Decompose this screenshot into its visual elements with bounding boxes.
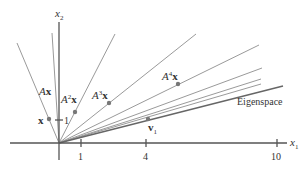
ray-A6x xyxy=(59,79,261,143)
point-x xyxy=(47,117,51,121)
label-v1: v1 xyxy=(148,121,158,136)
iteration-rays xyxy=(17,33,262,143)
point-A4x xyxy=(176,82,180,86)
point-A2x xyxy=(73,110,77,114)
label-eigenspace: Eigenspace xyxy=(237,96,283,107)
x2-axis-label: x2 xyxy=(54,7,64,22)
point-A3x xyxy=(107,101,111,105)
label-A3x: A3x xyxy=(91,89,108,101)
ray-A3x xyxy=(59,34,196,143)
label-Ax: Ax xyxy=(38,85,52,97)
x-tick-label-10: 10 xyxy=(271,151,281,162)
ray-A7x xyxy=(59,84,261,143)
label-A2x: A2x xyxy=(60,93,77,105)
x-tick-label-4: 4 xyxy=(143,151,148,162)
eigenvector-iteration-diagram: x2 x1 1 4 10 1 x Ax A2x A3x A4x v1 Eigen… xyxy=(0,0,306,171)
x1-axis-label: x1 xyxy=(289,136,299,151)
ray-x xyxy=(17,43,59,143)
ray-Ax xyxy=(52,33,59,143)
label-A4x: A4x xyxy=(161,70,178,82)
y-tick-label-1: 1 xyxy=(64,115,69,126)
label-x: x xyxy=(38,114,44,126)
ray-A4x xyxy=(59,45,259,143)
axes xyxy=(10,22,287,160)
x-tick-label-1: 1 xyxy=(78,151,83,162)
ray-A5x xyxy=(59,68,262,143)
